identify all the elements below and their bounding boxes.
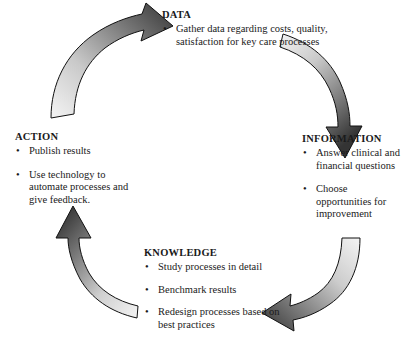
arrow-action-to-data — [51, 3, 173, 118]
bullet-icon: • — [303, 183, 307, 196]
bullet-text: Redesign processes based on best practic… — [158, 306, 280, 330]
stage-bullets-action: • Publish results • Use technology to au… — [15, 145, 135, 206]
stage-block-information: INFORMATION • Answer clinical and financ… — [302, 132, 400, 232]
bullet-text: Use technology to automate processes and… — [29, 169, 128, 205]
stage-bullets-data: • Gather data regarding costs, quality, … — [162, 23, 332, 48]
bullet-icon: • — [303, 147, 307, 160]
stage-block-data: DATA • Gather data regarding costs, qual… — [162, 8, 332, 48]
list-item: • Choose opportunities for improvement — [302, 183, 400, 221]
stage-bullets-knowledge: • Study processes in detail • Benchmark … — [144, 261, 284, 331]
bullet-icon: • — [16, 169, 20, 182]
list-item: • Publish results — [15, 145, 135, 158]
stage-block-knowledge: KNOWLEDGE • Study processes in detail • … — [144, 246, 284, 341]
stage-title-action: ACTION — [15, 130, 135, 143]
bullet-icon: • — [16, 145, 20, 158]
bullet-text: Choose opportunities for improvement — [316, 183, 386, 219]
bullet-text: Publish results — [29, 145, 91, 156]
bullet-icon: • — [145, 261, 149, 274]
bullet-text: Benchmark results — [158, 284, 236, 295]
list-item: • Benchmark results — [144, 284, 284, 297]
bullet-text: Gather data regarding costs, quality, sa… — [176, 23, 328, 47]
bullet-icon: • — [145, 306, 149, 319]
list-item: • Redesign processes based on best pract… — [144, 306, 284, 331]
stage-block-action: ACTION • Publish results • Use technolog… — [15, 130, 135, 217]
arrow-knowledge-to-action — [56, 206, 138, 318]
stage-title-data: DATA — [162, 8, 332, 21]
bullet-icon: • — [145, 284, 149, 297]
bullet-icon: • — [163, 23, 167, 36]
list-item: • Gather data regarding costs, quality, … — [162, 23, 332, 48]
bullet-text: Study processes in detail — [158, 261, 262, 272]
list-item: • Study processes in detail — [144, 261, 284, 274]
stage-bullets-information: • Answer clinical and financial question… — [302, 147, 400, 221]
list-item: • Use technology to automate processes a… — [15, 169, 135, 207]
diagram-canvas: DATA • Gather data regarding costs, qual… — [0, 0, 401, 356]
stage-title-knowledge: KNOWLEDGE — [144, 246, 284, 259]
list-item: • Answer clinical and financial question… — [302, 147, 400, 172]
bullet-text: Answer clinical and financial questions — [316, 147, 400, 171]
stage-title-information: INFORMATION — [302, 132, 400, 145]
